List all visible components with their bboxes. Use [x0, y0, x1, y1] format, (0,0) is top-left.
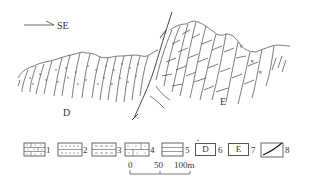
fault-line — [132, 12, 172, 120]
legend-number-5: 5 — [185, 146, 190, 155]
scale-tick-100m: 100m — [174, 161, 195, 170]
legend-box-d-text: D — [196, 143, 215, 156]
legend-box-e-text: E — [229, 143, 248, 156]
unit-d-strata — [18, 50, 158, 102]
unit-e-strata — [150, 21, 290, 108]
legend-box-e: E — [228, 143, 249, 156]
legend-box-d: D — [195, 143, 216, 156]
scale-tick-50: 50 — [154, 161, 163, 170]
legend-number-8: 8 — [285, 146, 290, 155]
scale-tick-0: 0 — [128, 161, 133, 170]
unit-label-d: D — [63, 108, 70, 118]
legend-number-1: 1 — [46, 146, 51, 155]
unit-label-e: E — [220, 97, 226, 107]
legend-number-7: 7 — [251, 146, 256, 155]
legend-number-2: 2 — [83, 146, 88, 155]
legend-number-4: 4 — [150, 146, 155, 155]
geological-cross-section: SE D E 1 2 3 4 5 D 6 E 7 8 0 50 100m — [0, 0, 311, 185]
cross-section-drawing — [0, 0, 311, 185]
direction-label: SE — [57, 21, 69, 31]
direction-arrow-icon — [24, 21, 54, 25]
scale-bar — [130, 170, 190, 174]
legend-number-3: 3 — [117, 146, 122, 155]
legend-number-6: 6 — [218, 146, 223, 155]
